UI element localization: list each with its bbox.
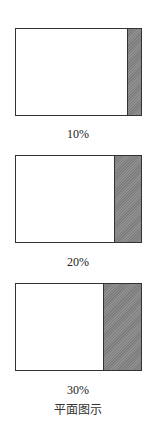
rectangle-10-percent	[15, 28, 142, 116]
percent-label-20: 20%	[0, 255, 153, 269]
shaded-region-10-percent	[127, 29, 141, 115]
shaded-region-30-percent	[103, 284, 141, 370]
percent-label-10: 10%	[0, 127, 153, 141]
percent-label-30: 30%	[0, 383, 153, 397]
rectangle-20-percent	[15, 155, 142, 243]
shaded-region-20-percent	[114, 156, 141, 242]
figure-caption: 平面图示	[0, 403, 153, 417]
rectangle-30-percent	[15, 283, 142, 371]
